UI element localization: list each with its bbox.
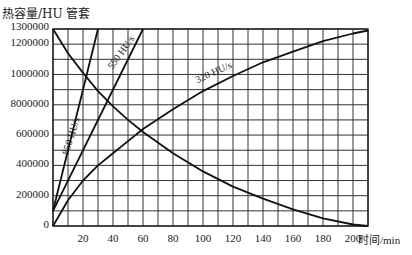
x-tick-20: 20 — [68, 232, 98, 244]
x-tick-100: 100 — [188, 232, 218, 244]
x-tick-160: 160 — [278, 232, 308, 244]
y-tick-1300000: 1300000 — [11, 20, 50, 32]
x-tick-180: 180 — [308, 232, 338, 244]
x-tick-120: 120 — [218, 232, 248, 244]
y-tick-600000: 600000 — [16, 127, 49, 139]
chart-grid — [53, 29, 368, 226]
series-cooling — [53, 29, 368, 226]
x-tick-80: 80 — [158, 232, 188, 244]
y-tick-400000: 400000 — [16, 157, 49, 169]
series-320-hu-s — [53, 31, 368, 227]
x-tick-60: 60 — [128, 232, 158, 244]
chart-title: 热容量/HU 管套 — [2, 4, 90, 21]
chart-series — [53, 29, 368, 226]
y-tick-800000: 8000000 — [11, 97, 50, 109]
y-tick-200000: 200000 — [16, 188, 49, 200]
y-tick-1000000: 1000000 — [11, 67, 50, 79]
heat-capacity-chart — [0, 0, 412, 255]
y-tick-1200000: 1200000 — [11, 36, 50, 48]
y-tick-0: 0 — [44, 218, 50, 230]
x-tick-40: 40 — [98, 232, 128, 244]
x-axis-label: 时间/min — [358, 231, 400, 247]
x-tick-140: 140 — [248, 232, 278, 244]
